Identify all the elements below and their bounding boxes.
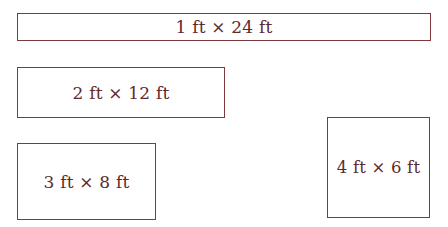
rectangle-3ft-by-8ft: 3 ft × 8 ft <box>17 143 156 220</box>
rectangle-label: 4 ft × 6 ft <box>337 158 420 177</box>
rectangle-2ft-by-12ft: 2 ft × 12 ft <box>17 67 225 118</box>
rectangle-1ft-by-24ft: 1 ft × 24 ft <box>17 13 431 41</box>
rectangle-label: 3 ft × 8 ft <box>44 172 130 192</box>
rectangle-label: 2 ft × 12 ft <box>73 83 170 103</box>
rectangle-4ft-by-6ft: 4 ft × 6 ft <box>327 117 430 218</box>
rectangle-label: 1 ft × 24 ft <box>176 17 273 37</box>
